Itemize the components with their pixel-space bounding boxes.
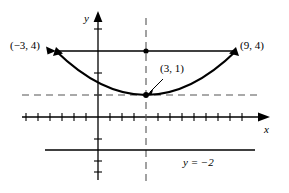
x-axis-label: x	[264, 124, 269, 135]
directrix-label: y = −2	[183, 157, 214, 168]
left-point-label: (−3, 4)	[10, 40, 40, 51]
x-axis-arrowhead	[258, 113, 270, 122]
vertex-point-label: (3, 1)	[160, 63, 184, 74]
vertex-leader-line	[150, 79, 163, 92]
y-axis-label: y	[84, 13, 89, 24]
y-axis-arrowhead	[94, 11, 103, 22]
figure-canvas	[0, 0, 289, 193]
right-point-label: (9, 4)	[240, 40, 264, 51]
parabola-figure: (−3, 4) (9, 4) (3, 1) y = −2 x y	[0, 0, 289, 193]
point-marker-3-4	[143, 48, 148, 53]
